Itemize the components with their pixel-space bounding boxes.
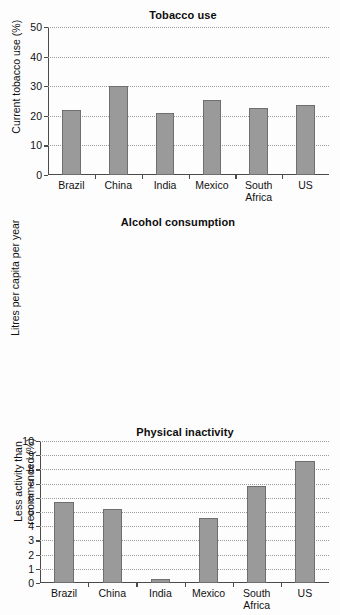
bar xyxy=(249,108,268,175)
chart-physical-inactivity: Physical inactivity Less activity than r… xyxy=(0,405,340,615)
y-tick-label: 40 xyxy=(30,51,42,63)
x-tick-mark xyxy=(282,175,283,179)
y-tick-label: 50 xyxy=(30,21,42,33)
bar xyxy=(203,100,222,175)
plot-area: 01020304050 xyxy=(48,27,329,175)
y-tick-mark xyxy=(44,27,48,28)
x-tick-label: South Africa xyxy=(245,180,272,203)
bar xyxy=(156,113,175,175)
gridline xyxy=(48,57,329,58)
x-tick-label: US xyxy=(298,180,313,192)
chart-tobacco-use: Tobacco use Current tobacco use (%) 0102… xyxy=(0,0,340,205)
y-axis-title: Less activity than recommended (%) xyxy=(13,412,36,552)
x-tick-label: Mexico xyxy=(195,180,228,192)
y-tick-mark xyxy=(44,57,48,58)
y-axis-title: Current tobacco use (%) xyxy=(11,2,23,152)
y-axis-line xyxy=(48,27,49,175)
y-tick-label: 20 xyxy=(30,110,42,122)
chart-alcohol-consumption: Alcohol consumption Litres per capita pe… xyxy=(0,205,340,405)
y-tick-label: 0 xyxy=(36,169,42,181)
y-tick-mark xyxy=(44,86,48,87)
bar xyxy=(109,86,128,175)
gridline xyxy=(48,27,329,28)
y-tick-label: 10 xyxy=(30,139,42,151)
y-tick-mark xyxy=(44,175,48,176)
bar xyxy=(296,105,315,175)
x-tick-label: China xyxy=(105,180,132,192)
chart-title: Tobacco use xyxy=(0,9,340,21)
chart-title: Alcohol consumption xyxy=(0,216,340,228)
y-tick-mark xyxy=(44,116,48,117)
chart-title: Physical inactivity xyxy=(0,426,340,438)
x-tick-mark xyxy=(235,175,236,179)
gridline xyxy=(48,116,329,117)
x-tick-mark xyxy=(189,175,190,179)
x-tick-label: Brazil xyxy=(58,180,84,192)
y-axis-title: Litres per capita per year xyxy=(10,203,22,353)
x-tick-label: India xyxy=(154,180,177,192)
x-tick-mark xyxy=(142,175,143,179)
y-tick-label: 30 xyxy=(30,80,42,92)
x-tick-mark xyxy=(95,175,96,179)
bar xyxy=(62,110,81,175)
y-tick-mark xyxy=(44,145,48,146)
gridline xyxy=(48,86,329,87)
gridline xyxy=(48,145,329,146)
figure-panel: Tobacco use Current tobacco use (%) 0102… xyxy=(0,0,340,615)
